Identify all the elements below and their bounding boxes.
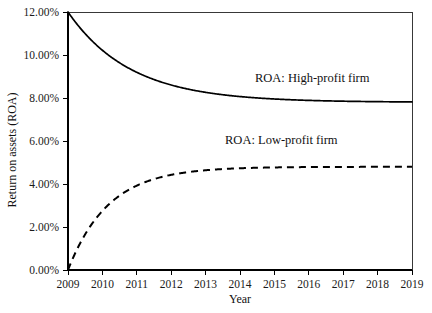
x-tick-label: 2010 (91, 278, 114, 290)
roa-line-chart: 0.00%2.00%4.00%6.00%8.00%10.00%12.00% 20… (0, 0, 432, 313)
y-tick-label: 4.00% (29, 178, 59, 190)
x-tick-label: 2009 (57, 278, 80, 290)
y-axis-title: Return on assets (ROA) (5, 93, 19, 208)
series-annotation-label: ROA: Low-profit firm (225, 133, 338, 147)
x-tick-label: 2017 (332, 278, 355, 290)
y-tick-label: 8.00% (29, 92, 59, 104)
x-tick-label: 2014 (229, 278, 252, 290)
x-tick-label: 2016 (297, 278, 320, 290)
y-tick-label: 0.00% (29, 264, 59, 276)
x-tick-label: 2011 (126, 278, 149, 290)
chart-background (0, 0, 432, 313)
y-tick-label: 10.00% (24, 49, 60, 61)
x-tick-label: 2013 (194, 278, 217, 290)
x-tick-label: 2015 (263, 278, 286, 290)
y-tick-label: 2.00% (29, 221, 59, 233)
chart-page: 0.00%2.00%4.00%6.00%8.00%10.00%12.00% 20… (0, 0, 432, 313)
x-tick-label: 2018 (366, 278, 389, 290)
x-axis-title: Year (229, 292, 251, 306)
x-axis-tick-labels: 2009201020112012201320142015201620172018… (57, 278, 424, 290)
y-tick-label: 12.00% (24, 6, 60, 18)
y-tick-label: 6.00% (29, 135, 59, 147)
series-annotation-label: ROA: High-profit firm (255, 71, 370, 85)
x-tick-label: 2012 (160, 278, 183, 290)
x-tick-label: 2019 (401, 278, 424, 290)
